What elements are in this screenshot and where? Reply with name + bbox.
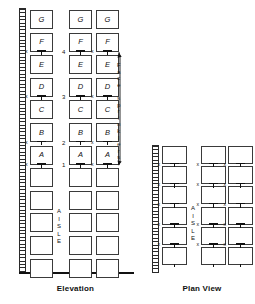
storage-box-empty [201,227,226,245]
sprinkler-stem [107,164,109,168]
face-sprinkler [103,141,112,146]
vertical-text-char: A [57,208,61,216]
sprinkler-x-mark: x [158,182,161,187]
sprinkler-stem [240,245,242,249]
storage-box-empty [96,191,119,210]
storage-box-label: E [31,61,52,69]
sprinkler-x-mark: x [224,162,227,167]
storage-box-b: B [96,123,119,142]
face-sprinkler [236,243,245,248]
sprinkler-x-mark: x [25,162,28,167]
storage-box-label: F [97,38,118,46]
storage-box-a: A [30,146,53,165]
vertical-text-char: r [118,148,120,155]
storage-box-label: B [97,129,118,137]
storage-box-empty [30,213,53,232]
storage-box-empty [228,247,253,265]
storage-box-label: F [31,38,52,46]
storage-box-empty [30,191,53,210]
vertical-text-char: c [117,75,120,82]
sprinkler-stem [107,142,109,146]
storage-box-label: C [97,106,118,114]
sprinkler-stem [213,224,215,228]
storage-box-empty [96,259,119,278]
sprinkler-stem [213,164,215,168]
sprinkler-stem [41,97,43,101]
plan-aisle-label: AISLE [191,205,195,243]
storage-box-empty [162,207,187,225]
sprinkler-stem [174,204,176,208]
storage-box-empty [162,227,187,245]
storage-box-e: E [30,55,53,74]
face-sprinkler [209,183,218,188]
elevation-caption: Elevation [18,284,133,293]
storage-box-label: D [70,84,91,92]
vertical-text-char: a [117,69,120,76]
storage-box-c: C [69,100,92,119]
sprinkler-x-mark: x [224,182,227,187]
sprinkler-x-mark: x [158,202,161,207]
leader-line [119,161,120,165]
storage-box-empty [201,166,226,184]
face-sprinkler [170,203,179,208]
storage-box-empty [228,146,253,164]
storage-box-empty [201,146,226,164]
face-sprinkler [209,243,218,248]
sprinkler-stem [240,184,242,188]
storage-box-b: B [69,123,92,142]
sprinkler-stem [80,164,82,168]
storage-box-empty [69,168,92,187]
sprinkler-x-mark: x [91,49,94,54]
face-sprinklers-callout-label: Face sprinklers [117,62,120,161]
vertical-text-char [118,88,120,95]
sprinkler-stem [174,184,176,188]
storage-box-d: D [96,78,119,97]
storage-box-c: C [96,100,119,119]
storage-box-label: C [31,106,52,114]
storage-box-label: G [97,16,118,24]
face-sprinkler [209,223,218,228]
sprinkler-stem [240,264,242,267]
vertical-text-char: r [118,108,120,115]
face-sprinkler [170,163,179,168]
face-sprinkler [236,163,245,168]
storage-box-a: A [96,146,119,165]
vertical-text-char: A [191,205,195,213]
face-sprinkler [170,183,179,188]
vertical-text-char: I [58,216,60,224]
storage-box-label: A [97,151,118,159]
plan-caption: Plan View [152,284,252,293]
face-sprinkler [170,223,179,228]
face-sprinkler [37,50,46,55]
face-sprinkler [103,163,112,168]
sprinkler-stem [80,142,82,146]
face-sprinkler [236,183,245,188]
storage-box-empty [96,236,119,255]
storage-box-empty [69,236,92,255]
storage-box-g: G [96,10,119,29]
sprinkler-x-mark: x [91,162,94,167]
storage-box-empty [228,227,253,245]
sprinkler-stem [240,224,242,228]
vertical-text-char: S [191,220,195,228]
storage-box-empty [162,186,187,204]
storage-box-c: C [30,100,53,119]
face-sprinkler [76,95,85,100]
tier-number-4: 4 [62,49,65,55]
storage-box-empty [30,259,53,278]
vertical-text-char: p [117,102,120,109]
sprinkler-stem [174,264,176,267]
storage-box-b: B [30,123,53,142]
vertical-text-char: e [117,82,120,89]
sprinkler-rack-storage-diagram: GFEDCBAGFEDCBAGFEDCBAx4xx3xx2xx1xAISLEFa… [0,0,255,304]
sprinkler-stem [213,204,215,208]
face-sprinkler [37,141,46,146]
storage-box-empty [96,168,119,187]
storage-box-empty [30,236,53,255]
elevation-aisle-label: AISLE [57,208,61,246]
storage-box-empty [162,166,187,184]
vertical-text-char: i [118,115,119,122]
storage-box-label: D [31,84,52,92]
storage-box-label: B [70,129,91,137]
face-sprinkler [103,50,112,55]
